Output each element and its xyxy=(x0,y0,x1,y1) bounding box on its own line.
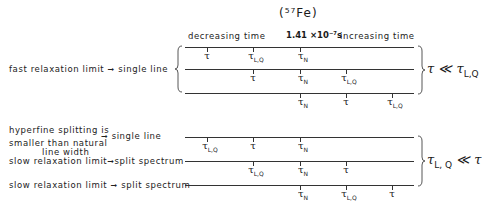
arrow-icon: ➞ xyxy=(101,132,108,141)
relaxation-time-symbol: τ xyxy=(250,72,256,83)
slow-relaxation-label-2: slow relaxation limit ➞ split spectrum xyxy=(9,180,190,190)
right-brace-icon xyxy=(417,135,427,187)
slow-relaxation-result: split spectrum xyxy=(121,180,190,190)
hyperfine-result-text: single line xyxy=(112,131,162,141)
slow-relaxation-result: split spectrum xyxy=(115,156,184,166)
relaxation-time-symbol: τL,Q xyxy=(248,164,264,177)
relaxation-time-symbol: τ xyxy=(204,50,210,61)
decreasing-time-label: decreasing time xyxy=(188,31,266,41)
fast-relaxation-label: fast relaxation limit ➞ single line xyxy=(9,64,168,74)
arrow-icon: ➞ xyxy=(111,181,118,190)
relaxation-time-symbol: τL,Q xyxy=(202,140,218,153)
arrow-icon: ➞ xyxy=(107,157,114,166)
relaxation-time-symbol: τ xyxy=(343,164,349,175)
slow-relaxation-text: slow relaxation limit xyxy=(9,156,107,166)
increasing-time-label: increasing time xyxy=(340,31,415,41)
arrow-icon: ➞ xyxy=(108,65,115,74)
slow-relaxation-label-1: slow relaxation limit➞split spectrum xyxy=(9,156,184,166)
right-brace-icon xyxy=(417,45,427,95)
relaxation-time-symbol: τN xyxy=(298,188,308,201)
relaxation-time-symbol: τL,Q xyxy=(248,50,264,63)
hyperfine-label-line1: hyperfine splitting is xyxy=(9,125,109,135)
relaxation-time-symbol: τN xyxy=(298,72,308,85)
relaxation-time-symbol: τN xyxy=(298,96,308,109)
relaxation-time-symbol: τN xyxy=(298,164,308,177)
relaxation-time-symbol: τ xyxy=(343,96,349,107)
relaxation-time-symbol: τ xyxy=(250,140,256,151)
fast-relaxation-result: single line xyxy=(118,64,168,74)
center-time-label: 1.41 ×10⁻⁷s xyxy=(286,30,342,40)
relaxation-time-symbol: τN xyxy=(298,140,308,153)
relaxation-time-symbol: τN xyxy=(298,50,308,63)
relaxation-time-symbol: τL,Q xyxy=(387,96,403,109)
left-brace-icon xyxy=(174,45,184,93)
isotope-label: (⁵⁷Fe) xyxy=(279,6,318,20)
condition-fast: τ ≪ τL,Q xyxy=(427,61,479,79)
relaxation-time-symbol: τ xyxy=(389,188,395,199)
slow-relaxation-text: slow relaxation limit xyxy=(9,180,107,190)
hyperfine-result: ➞ single line xyxy=(101,131,161,141)
relaxation-time-symbol: τL,Q xyxy=(341,188,357,201)
fast-relaxation-text: fast relaxation limit xyxy=(9,64,104,74)
relaxation-time-symbol: τL,Q xyxy=(341,72,357,85)
condition-slow: τL, Q ≪ τ xyxy=(427,152,482,170)
